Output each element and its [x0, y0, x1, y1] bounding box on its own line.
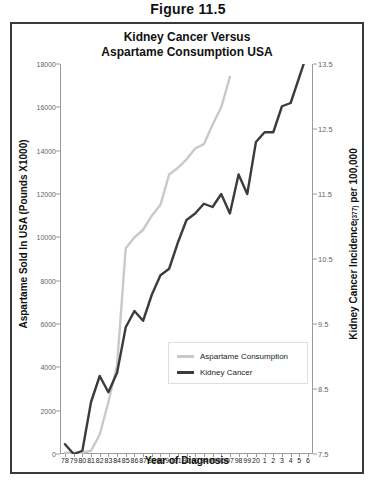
chart-legend: Aspartame Consumption Kidney Cancer: [168, 342, 308, 384]
chart-title-line-1: Kidney Cancer Versus: [12, 30, 362, 45]
y-left-tick-mark: [56, 64, 60, 65]
y-left-tick-mark: [56, 367, 60, 368]
legend-swatch-aspartame: [177, 355, 194, 358]
y-right-tick-label: 10.5: [318, 255, 333, 264]
plot-area: 0200040006000800010000120001400016000180…: [60, 64, 313, 454]
y-left-tick-label: 16000: [37, 104, 56, 111]
y-right-tick-mark: [313, 323, 317, 324]
y-left-tick-label: 8000: [40, 277, 56, 284]
figure-page: Figure 11.5 Kidney Cancer Versus Asparta…: [0, 0, 376, 484]
y-left-tick-mark: [56, 237, 60, 238]
y-axis-right-title-main: Kidney Cancer Incidence: [348, 221, 359, 340]
chart-title-line-2: Aspartame Consumption USA: [12, 45, 362, 60]
y-right-tick-mark: [313, 64, 317, 65]
legend-item-kidney-cancer: Kidney Cancer: [177, 364, 307, 380]
y-right-tick-label: 8.5: [318, 385, 328, 394]
y-left-tick-mark: [56, 150, 60, 151]
y-left-tick-label: 4000: [40, 364, 56, 371]
plot-lines: [60, 64, 313, 454]
y-right-tick-mark: [313, 128, 317, 129]
y-left-tick-label: 14000: [37, 147, 56, 154]
figure-caption: Figure 11.5: [0, 1, 376, 17]
y-left-tick-label: 10000: [37, 234, 56, 241]
y-right-tick-label: 13.5: [318, 60, 333, 69]
y-left-tick-mark: [56, 410, 60, 411]
y-axis-right-title-ref: (377): [351, 206, 358, 221]
y-left-tick-label: 6000: [40, 320, 56, 327]
y-left-tick-mark: [56, 323, 60, 324]
legend-label-kidney-cancer: Kidney Cancer: [200, 368, 252, 377]
x-axis-title: Year of Diagnosis: [12, 455, 362, 466]
y-left-tick-mark: [56, 193, 60, 194]
y-left-tick-label: 12000: [37, 190, 56, 197]
y-left-tick-mark: [56, 280, 60, 281]
y-left-tick-mark: [56, 107, 60, 108]
y-axis-right-title: Kidney Cancer Incidence(377) per 100,000: [348, 79, 359, 409]
legend-swatch-kidney-cancer: [177, 371, 194, 374]
y-axis-left-title: Aspartame Sold In USA (Pounds X1000): [18, 84, 29, 384]
y-right-tick-mark: [313, 259, 317, 260]
y-right-tick-mark: [313, 193, 317, 194]
chart-container: Kidney Cancer Versus Aspartame Consumpti…: [10, 22, 364, 474]
series-line-aspartame-consumption: [65, 77, 230, 453]
y-right-tick-mark: [313, 389, 317, 390]
y-right-tick-label: 11.5: [318, 189, 332, 198]
legend-label-aspartame: Aspartame Consumption: [200, 352, 288, 361]
chart-title: Kidney Cancer Versus Aspartame Consumpti…: [12, 30, 362, 60]
y-left-tick-label: 2000: [40, 407, 56, 414]
y-axis-right-title-tail: per 100,000: [348, 148, 359, 205]
legend-item-aspartame: Aspartame Consumption: [177, 348, 307, 364]
y-left-tick-label: 18000: [37, 61, 56, 68]
series-line-kidney-cancer: [65, 64, 308, 454]
y-right-tick-label: 12.5: [318, 124, 333, 133]
y-right-tick-label: 9.5: [318, 319, 328, 328]
